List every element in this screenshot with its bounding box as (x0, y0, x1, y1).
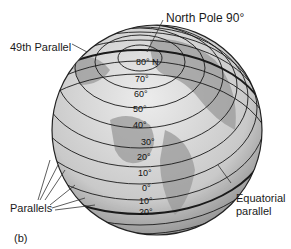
49th-parallel-label: 49th Parallel (10, 41, 71, 53)
degree-label-0: 0° (142, 183, 151, 193)
degree-label-50: 50° (133, 104, 147, 114)
equatorial-label-line1: Equatorial (236, 192, 286, 204)
parallels-label: Parallels (10, 202, 52, 214)
figure-tag: (b) (14, 232, 27, 244)
degree-label-30: 30° (141, 137, 155, 147)
degree-label-40: 40° (133, 120, 147, 130)
degree-label-20s: 20° (139, 207, 153, 217)
degree-label-80: 80° N (136, 57, 159, 67)
degree-label-10s: 10° (139, 196, 153, 206)
degree-label-60: 60° (134, 89, 148, 99)
equatorial-label-line2: parallel (236, 205, 271, 217)
degree-label-70: 70° (135, 74, 149, 84)
north-pole-label: North Pole 90° (166, 12, 244, 24)
degree-label-20n: 20° (137, 152, 151, 162)
degree-label-10n: 10° (138, 168, 152, 178)
